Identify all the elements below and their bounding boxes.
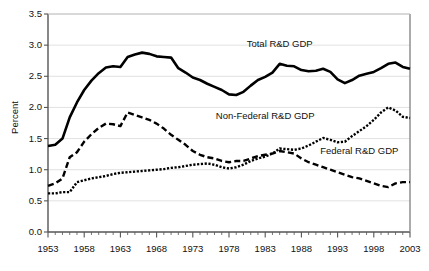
x-axis-tick-label: 1973 <box>173 244 213 254</box>
series-label-non-federal-r-d-gdp: Non-Federal R&D GDP <box>216 110 315 121</box>
series-label-total-r-d-gdp: Total R&D GDP <box>247 38 313 49</box>
x-axis-tick-label: 1968 <box>137 244 177 254</box>
x-axis-tick-label: 1963 <box>100 244 140 254</box>
x-axis-tick-labels: 1953195819631968197319781983198819931998… <box>0 0 429 271</box>
x-axis-tick-label: 1953 <box>28 244 68 254</box>
x-axis-tick-label: 1998 <box>354 244 394 254</box>
x-axis-tick-label: 2003 <box>390 244 429 254</box>
x-axis-tick-label: 1983 <box>245 244 285 254</box>
x-axis-tick-label: 1978 <box>209 244 249 254</box>
series-label-federal-r-d-gdp: Federal R&D GDP <box>320 145 398 156</box>
chart-container: Percent 0.00.51.01.52.02.53.03.5 1953195… <box>0 0 429 271</box>
x-axis-tick-label: 1993 <box>318 244 358 254</box>
x-axis-tick-label: 1958 <box>64 244 104 254</box>
x-axis-tick-label: 1988 <box>281 244 321 254</box>
